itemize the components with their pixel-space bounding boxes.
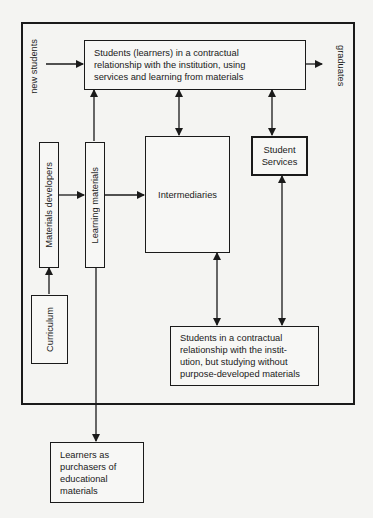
intermediaries-node: Intermediaries — [145, 136, 230, 253]
materials-developers-node: Materials developers — [39, 142, 59, 268]
enrolled-students-node: Students (learners) in a contractual rel… — [84, 40, 306, 90]
graduates-label: graduates — [333, 36, 349, 96]
new-students-label: new students — [26, 36, 42, 96]
students-without-materials-node: Students in a contractual relationship w… — [170, 326, 319, 386]
learning-materials-node: Learning materials — [85, 142, 105, 268]
student-services-node: Student Services — [251, 136, 308, 176]
learners-purchasers-node: Learners as purchasers of educational ma… — [50, 442, 144, 503]
curriculum-node: Curriculum — [31, 295, 68, 364]
